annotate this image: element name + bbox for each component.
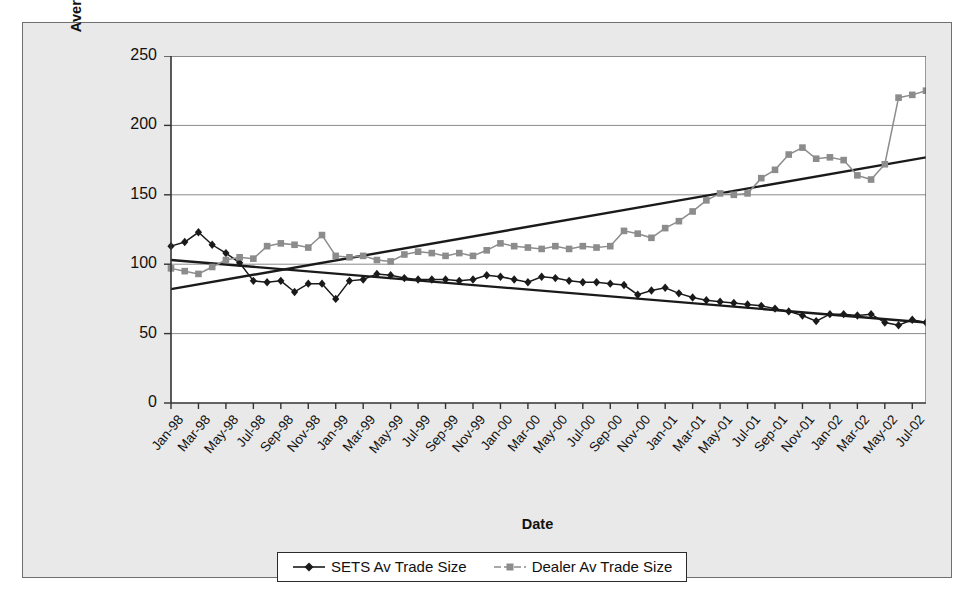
chart-legend: SETS Av Trade Size Dealer Av Trade Size bbox=[277, 552, 687, 582]
legend-label-dealer: Dealer Av Trade Size bbox=[532, 558, 673, 575]
legend-label-sets: SETS Av Trade Size bbox=[331, 558, 467, 575]
plot-area: Average trade size as a percentage of ov… bbox=[149, 56, 926, 434]
y-tick-250: 250 bbox=[111, 46, 157, 64]
y-tick-100: 100 bbox=[111, 254, 157, 272]
legend-item-sets[interactable]: SETS Av Trade Size bbox=[292, 558, 467, 575]
y-tick-200: 200 bbox=[111, 115, 157, 133]
x-axis-title: Date bbox=[149, 516, 926, 532]
chart-figure: Average trade size as a percentage of ov… bbox=[22, 22, 952, 578]
y-axis-title: Average trade size as a percentage of ov… bbox=[67, 0, 106, 60]
plot-canvas bbox=[149, 56, 926, 434]
y-tick-150: 150 bbox=[111, 185, 157, 203]
legend-item-dealer[interactable]: Dealer Av Trade Size bbox=[493, 558, 673, 575]
dealer-marker-icon bbox=[493, 560, 527, 574]
y-tick-0: 0 bbox=[111, 393, 157, 411]
sets-marker-icon bbox=[292, 560, 326, 574]
plot-background bbox=[171, 56, 926, 403]
y-tick-50: 50 bbox=[111, 324, 157, 342]
